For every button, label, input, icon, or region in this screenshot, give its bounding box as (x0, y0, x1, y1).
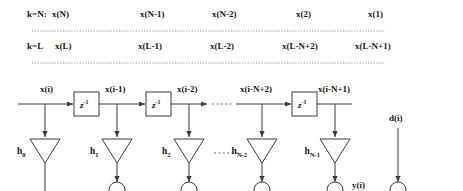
gain-sub-0: 0 (22, 151, 25, 158)
gain-triangle-hN-2 (247, 139, 277, 182)
gain-sub-1: 1 (95, 151, 98, 158)
tap-signal-label-4: x(i-N+1) (318, 85, 350, 94)
gain-triangle-h0 (30, 139, 60, 191)
gain-label-h0: h0 (17, 147, 26, 158)
summing-node-3 (254, 182, 270, 191)
filter-block-diagram (0, 0, 463, 191)
delay-block-label-3: z-1 (298, 99, 307, 110)
gain-label-hN-1: hN-1 (305, 147, 320, 158)
index-row2-cell-2: x(L-2) (210, 42, 234, 51)
tap-signal-label-0: x(i) (40, 85, 53, 94)
index-row1-cell-4: x(1) (368, 10, 383, 19)
tap-signal-label-2: x(i-2) (177, 85, 198, 94)
gain-triangle-hN-1 (320, 139, 350, 182)
index-row1-cell-3: x(2) (296, 10, 311, 19)
summing-node-4 (327, 182, 343, 191)
gain-label-hN-2: hN-2 (232, 147, 247, 158)
index-row-key-2: k=L (27, 42, 43, 51)
output-label-y: y(i) (352, 181, 365, 190)
summing-node-1 (109, 182, 125, 191)
summing-node-error (390, 182, 406, 191)
index-row-key-1: k=N: (27, 10, 47, 19)
index-row2-cell-4: x(L-N+1) (355, 42, 391, 51)
gain-label-h2: h2 (162, 147, 171, 158)
delay-block-label-2: z-1 (152, 99, 161, 110)
index-row1-cell-1: x(N-1) (140, 10, 165, 19)
gain-sub-4: N-1 (310, 151, 320, 158)
gain-triangle-h1 (102, 139, 132, 182)
index-row2-cell-3: x(L-N+2) (282, 42, 318, 51)
tap-signal-label-3: x(i-N+2) (240, 85, 272, 94)
index-row1-cell-2: x(N-2) (212, 10, 237, 19)
delay-exp-2: -1 (156, 99, 161, 105)
tap-signal-label-1: x(i-1) (105, 85, 126, 94)
gain-sub-3: N-2 (237, 151, 247, 158)
index-row1-cell-0: x(N) (52, 10, 69, 19)
desired-signal-label-d: d(i) (389, 114, 403, 123)
gain-triangle-h2 (174, 139, 204, 182)
index-row2-cell-0: x(L) (55, 42, 72, 51)
gain-label-h1: h1 (90, 147, 99, 158)
delay-exp-1: -1 (84, 99, 89, 105)
gain-sub-2: 2 (167, 151, 170, 158)
delay-exp-3: -1 (302, 99, 307, 105)
index-row2-cell-1: x(L-1) (138, 42, 162, 51)
summing-node-2 (181, 182, 197, 191)
delay-block-label-1: z-1 (80, 99, 89, 110)
